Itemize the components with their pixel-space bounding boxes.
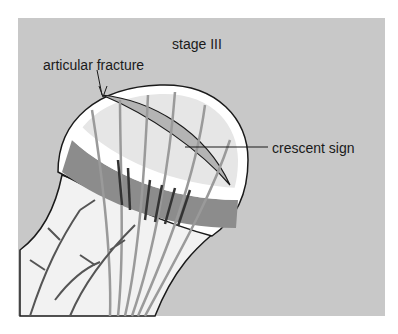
stage-title: stage III bbox=[172, 36, 222, 52]
crescent-sign-label: crescent sign bbox=[272, 140, 354, 156]
articular-fracture-label: articular fracture bbox=[43, 57, 144, 73]
fracture-leader-line bbox=[97, 70, 102, 95]
